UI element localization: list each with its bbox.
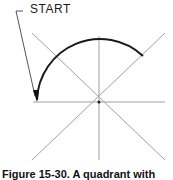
figure-caption: Figure 15-30. A quadrant with bbox=[2, 168, 155, 180]
start-label: START bbox=[30, 2, 71, 16]
guide-lines bbox=[32, 33, 165, 160]
start-leader-line bbox=[16, 11, 35, 96]
quadrant-figure bbox=[0, 0, 173, 180]
center-point bbox=[98, 101, 101, 104]
